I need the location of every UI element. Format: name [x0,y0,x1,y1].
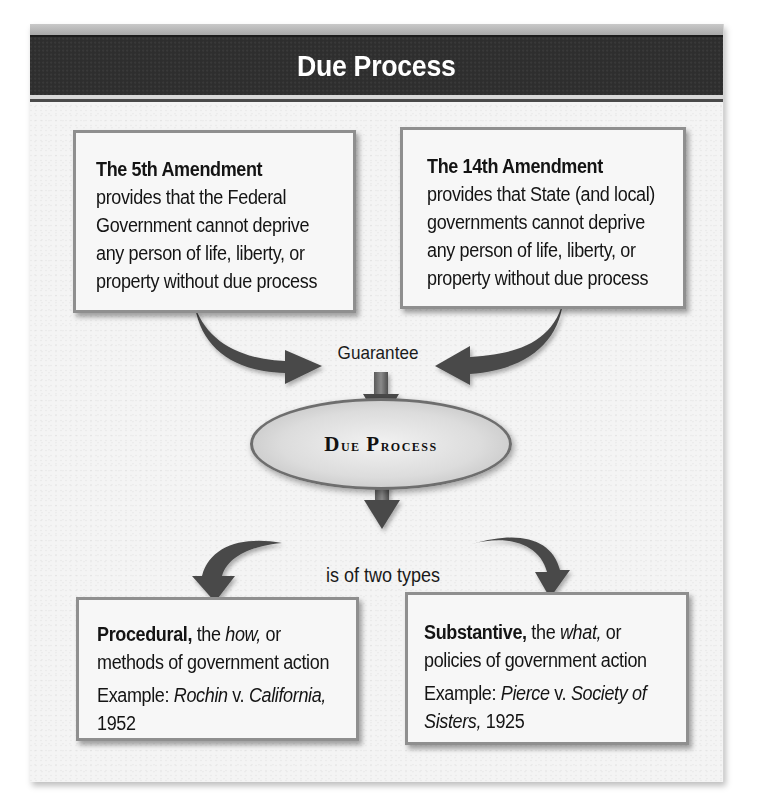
fourteenth-amendment-line: governments cannot deprive [427,208,657,236]
arrow-to-substantive-icon [472,537,570,598]
procedural-title: Procedural, [97,623,192,645]
fourteenth-amendment-box: The 14th Amendment provides that State (… [400,127,686,309]
procedural-text: the [192,623,225,645]
diagram-frame: Due Process [30,24,724,782]
case-party: Sisters, [424,710,481,732]
substantive-italic: what, [560,621,601,643]
fifth-amendment-line: Government cannot deprive [96,211,327,239]
page-title: Due Process [297,50,456,83]
due-process-ellipse: Due Process [250,398,512,490]
fifth-amendment-line: provides that the Federal [96,183,327,211]
header-top-strip [30,24,723,35]
substantive-text: or [601,621,621,643]
guarantee-label: Guarantee [338,342,419,364]
procedural-year: 1952 [97,709,330,737]
header-divider-dark [30,99,723,102]
substantive-heading: Substantive, the what, or [424,618,660,646]
due-process-label-cap: P [366,432,380,456]
example-prefix: Example: [424,682,501,704]
substantive-title: Substantive, [424,621,527,643]
due-process-label-cap: D [324,432,341,456]
procedural-heading: Procedural, the how, or [97,620,330,648]
substantive-text: the [527,621,560,643]
fifth-amendment-title: The 5th Amendment [96,155,327,183]
procedural-example: Example: Rochin v. California, [97,681,330,709]
procedural-text: or [261,623,281,645]
substantive-box: Substantive, the what, or policies of go… [405,592,689,745]
procedural-description: methods of government action [97,648,330,676]
case-party: Society of [571,682,646,704]
arrow-5th-to-guarantee-icon [195,307,322,384]
two-types-label: is of two types [326,564,440,587]
case-party: Rochin [174,684,228,706]
due-process-label-rest: ue [341,436,361,455]
substantive-year: 1925 [481,710,524,732]
fifth-amendment-box: The 5th Amendment provides that the Fede… [73,130,356,313]
arrow-to-procedural-icon [192,541,282,602]
substantive-example-cont: Sisters, 1925 [424,707,660,735]
fourteenth-amendment-title: The 14th Amendment [427,152,657,180]
case-versus: v. [228,684,249,706]
case-versus: v. [550,682,571,704]
fourteenth-amendment-line: provides that State (and local) [427,180,657,208]
procedural-box: Procedural, the how, or methods of gover… [76,597,359,741]
due-process-label-rest: rocess [381,436,438,455]
example-prefix: Example: [97,684,174,706]
case-party: California, [249,684,326,706]
arrow-14th-to-guarantee-icon [435,302,563,385]
substantive-description: policies of government action [424,646,660,674]
header-band: Due Process [30,35,723,95]
case-party: Pierce [501,682,550,704]
fourteenth-amendment-line: property without due process [427,264,657,292]
fourteenth-amendment-line: any person of life, liberty, or [427,236,657,264]
substantive-example: Example: Pierce v. Society of [424,679,660,707]
due-process-label: Due Process [324,432,437,457]
fifth-amendment-line: any person of life, liberty, or [96,239,327,267]
procedural-italic: how, [225,623,261,645]
fifth-amendment-line: property without due process [96,267,327,295]
